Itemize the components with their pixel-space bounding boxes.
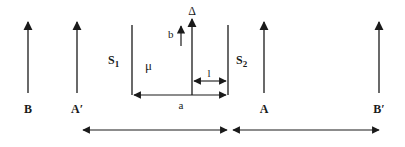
label-b: B (24, 102, 32, 116)
label-mu: μ (145, 58, 152, 73)
label-s1: S1 (108, 53, 120, 69)
label-b-prime: B′ (373, 102, 384, 116)
label-s2: S2 (236, 53, 248, 69)
diagram-canvas: B A′ A B′ S1 S2 μ Δ b l a (0, 0, 405, 147)
label-small-b: b (168, 28, 174, 40)
label-delta: Δ (188, 4, 196, 18)
label-a-distance: a (179, 99, 184, 111)
label-l: l (207, 67, 210, 79)
label-a-prime: A′ (71, 102, 83, 116)
label-a: A (260, 102, 269, 116)
